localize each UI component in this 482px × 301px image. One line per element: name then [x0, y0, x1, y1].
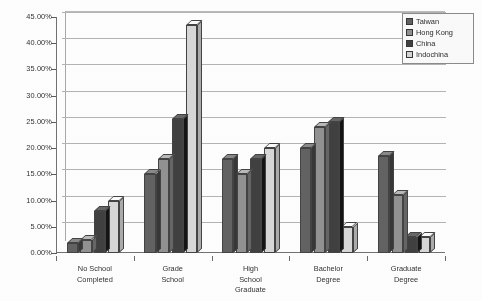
x-tick-mark	[212, 256, 213, 261]
x-tick-label: Bachelor Degree	[288, 264, 368, 285]
legend-item: Hong Kong	[406, 27, 470, 38]
bar-taiwan	[378, 156, 389, 253]
bar-side	[275, 144, 280, 253]
bar-taiwan	[300, 148, 311, 253]
chart-legend: TaiwanHong KongChinaIndochina	[402, 13, 474, 64]
bar-face	[222, 159, 233, 253]
y-tick-mark	[51, 253, 57, 254]
bar-side	[325, 123, 330, 253]
legend-label: Indochina	[416, 50, 448, 59]
y-tick-label: 0.00%	[2, 248, 52, 257]
x-tick-mark	[134, 256, 135, 261]
bar-side	[156, 170, 161, 253]
bar-face	[378, 156, 389, 253]
legend-label: Hong Kong	[416, 28, 453, 37]
legend-item: Taiwan	[406, 16, 470, 27]
y-axis: 0.00%5.00%10.00%15.00%20.00%25.00%30.00%…	[0, 0, 52, 301]
bar-side	[247, 170, 252, 253]
bar-side	[105, 207, 110, 253]
bar-side	[119, 196, 124, 253]
x-tick-mark	[56, 256, 57, 261]
y-tick-label: 20.00%	[2, 143, 52, 152]
bar-side	[183, 115, 188, 253]
y-tick-label: 5.00%	[2, 222, 52, 231]
y-tick-label: 35.00%	[2, 64, 52, 73]
x-tick-label: No School Completed	[55, 264, 135, 285]
bar-side	[353, 222, 358, 253]
bar-chart: 0.00%5.00%10.00%15.00%20.00%25.00%30.00%…	[0, 0, 482, 301]
x-tick-label: High School Graduate	[211, 264, 291, 296]
y-tick-label: 10.00%	[2, 196, 52, 205]
bar-taiwan	[67, 243, 78, 253]
bar-face	[67, 243, 78, 253]
gridline	[62, 12, 446, 13]
bar-side	[233, 154, 238, 253]
x-tick-label: Grade School	[133, 264, 213, 285]
y-tick-label: 25.00%	[2, 117, 52, 126]
bar-face	[300, 148, 311, 253]
bar-taiwan	[144, 174, 155, 253]
legend-swatch-icon	[406, 51, 413, 58]
bar-side	[169, 154, 174, 253]
y-tick-label: 30.00%	[2, 91, 52, 100]
legend-swatch-icon	[406, 18, 413, 25]
x-tick-mark	[367, 256, 368, 261]
y-tick-label: 15.00%	[2, 169, 52, 178]
legend-swatch-icon	[406, 40, 413, 47]
legend-item: Indochina	[406, 49, 470, 60]
x-tick-mark	[445, 256, 446, 261]
bar-side	[403, 191, 408, 253]
bar-taiwan	[222, 159, 233, 253]
legend-item: China	[406, 38, 470, 49]
x-axis: No School CompletedGrade SchoolHigh Scho…	[56, 256, 445, 301]
x-tick-label: Graduate Degree	[366, 264, 446, 285]
bar-side	[389, 151, 394, 253]
bar-face	[144, 174, 155, 253]
legend-label: Taiwan	[416, 17, 439, 26]
y-tick-label: 45.00%	[2, 12, 52, 21]
bar-side	[311, 144, 316, 253]
bar-side	[197, 20, 202, 253]
legend-swatch-icon	[406, 29, 413, 36]
bar-side	[261, 154, 266, 253]
y-tick-label: 40.00%	[2, 38, 52, 47]
bars-layer	[56, 17, 445, 253]
bar-side	[339, 117, 344, 253]
x-tick-mark	[289, 256, 290, 261]
legend-label: China	[416, 39, 435, 48]
